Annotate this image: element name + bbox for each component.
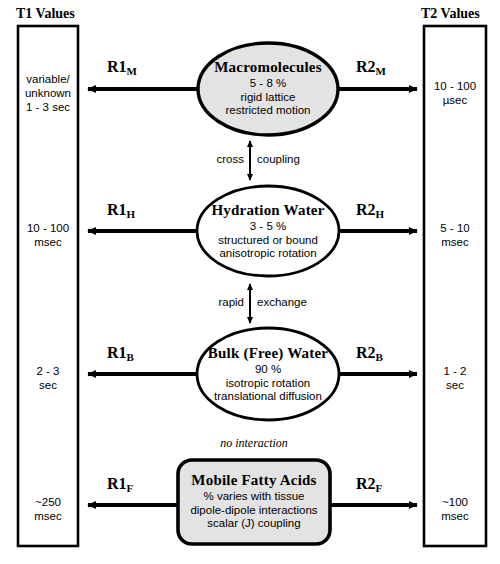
t1-value-line: msec	[17, 235, 79, 249]
t2-value-bulk-water: 1 - 2 sec	[424, 364, 486, 392]
t2-value-line: 5 - 10	[424, 221, 486, 235]
link-label-coupling: coupling	[257, 153, 300, 165]
node-bulk-water-shape	[197, 328, 339, 420]
rate-base: R2	[356, 201, 376, 218]
t1-value-line: 1 - 3 sec	[17, 100, 79, 114]
rate-label-r1f: R1F	[107, 475, 133, 494]
link-label-cross: cross	[180, 153, 244, 165]
t2-value-line: msec	[424, 235, 486, 249]
t1-value-line: msec	[17, 509, 79, 523]
node-hydration-water-shape	[197, 186, 339, 276]
t1-value-line: ~250	[17, 495, 79, 509]
diagram-canvas: T1 Values T2 Values variable/ unknown 1 …	[0, 0, 500, 564]
rate-subscript: H	[127, 208, 136, 220]
link-label-exchange: exchange	[257, 296, 307, 308]
t1-value-line: unknown	[17, 86, 79, 100]
rate-base: R2	[356, 344, 376, 361]
t1-value-line: sec	[17, 378, 79, 392]
t2-value-hydration-water: 5 - 10 msec	[424, 221, 486, 249]
rate-label-r2b: R2B	[356, 344, 383, 363]
rate-base: R1	[107, 201, 127, 218]
link-label-no-interaction: no interaction	[178, 436, 330, 451]
rate-base: R1	[107, 344, 127, 361]
t2-value-line: ~100	[424, 495, 486, 509]
rate-base: R1	[107, 475, 127, 492]
rate-subscript: F	[376, 482, 383, 494]
node-mobile-fatty-acids-shape	[178, 460, 330, 544]
t2-values-header: T2 Values	[421, 6, 480, 22]
t1-values-header: T1 Values	[16, 6, 75, 22]
t2-value-line: 1 - 2	[424, 364, 486, 378]
rate-label-r1b: R1B	[107, 344, 134, 363]
t2-value-line: µsec	[424, 93, 486, 107]
rate-label-r2m: R2M	[356, 58, 386, 77]
rate-base: R2	[356, 58, 376, 75]
node-macromolecules-shape	[198, 43, 338, 135]
t2-value-line: msec	[424, 509, 486, 523]
t2-value-line: 10 - 100	[424, 79, 486, 93]
t1-value-macromolecules: variable/ unknown 1 - 3 sec	[17, 72, 79, 114]
rate-subscript: B	[127, 351, 134, 363]
rate-subscript: B	[376, 351, 383, 363]
t1-value-line: variable/	[17, 72, 79, 86]
t1-value-bulk-water: 2 - 3 sec	[17, 364, 79, 392]
t1-value-mobile-fatty-acids: ~250 msec	[17, 495, 79, 523]
rate-subscript: F	[127, 482, 134, 494]
rate-base: R1	[107, 58, 127, 75]
rate-label-r1m: R1M	[107, 58, 137, 77]
rate-base: R2	[356, 475, 376, 492]
rate-label-r1h: R1H	[107, 201, 135, 220]
rate-label-r2h: R2H	[356, 201, 384, 220]
t2-value-macromolecules: 10 - 100 µsec	[424, 79, 486, 107]
t2-value-mobile-fatty-acids: ~100 msec	[424, 495, 486, 523]
t1-value-line: 2 - 3	[17, 364, 79, 378]
t2-value-line: sec	[424, 378, 486, 392]
rate-subscript: H	[376, 208, 385, 220]
t1-value-hydration-water: 10 - 100 msec	[17, 221, 79, 249]
rate-label-r2f: R2F	[356, 475, 382, 494]
t1-value-line: 10 - 100	[17, 221, 79, 235]
rate-subscript: M	[376, 65, 386, 77]
link-label-rapid: rapid	[180, 296, 244, 308]
rate-subscript: M	[127, 65, 137, 77]
